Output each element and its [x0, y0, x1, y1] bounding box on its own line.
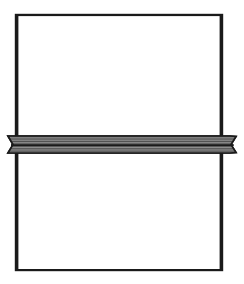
upper-region [18, 17, 221, 136]
lower-region [18, 154, 221, 269]
figure-canvas [0, 0, 244, 284]
technical-drawing-svg [0, 0, 244, 284]
band-overlay-segment [4, 134, 242, 156]
